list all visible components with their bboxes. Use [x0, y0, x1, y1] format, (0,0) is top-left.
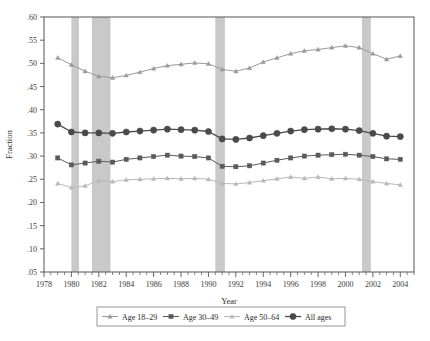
y-axis-ticks	[40, 17, 44, 272]
series-point-all-ages	[151, 127, 157, 133]
series-point-all-ages	[55, 121, 61, 127]
y-tick-label: .20	[27, 198, 37, 207]
series-point-age-30-49	[330, 153, 334, 157]
series-point-age-30-49	[206, 156, 210, 160]
y-tick-label: .60	[27, 13, 37, 22]
x-tick-label: 1988	[173, 280, 189, 289]
series-point-age-30-49	[302, 154, 306, 158]
legend-marker-3	[290, 313, 296, 319]
fraction-by-age-line-chart: .60.55.50.45.40.35.30.25.20.15.10.05 197…	[0, 0, 430, 341]
recession-band-2	[92, 17, 111, 272]
series-point-age-30-49	[247, 164, 251, 168]
series-point-age-30-49	[110, 160, 114, 164]
series-point-age-30-49	[193, 154, 197, 158]
series-point-all-ages	[370, 130, 376, 136]
series-point-age-30-49	[56, 156, 60, 160]
recession-band-4	[362, 17, 371, 272]
series-point-age-30-49	[398, 157, 402, 161]
chart-figure: .60.55.50.45.40.35.30.25.20.15.10.05 197…	[0, 0, 430, 341]
series-point-all-ages	[233, 136, 239, 142]
x-axis-tick-labels: 1978198019821984198619881990199219941996…	[36, 280, 408, 289]
series-point-all-ages	[219, 136, 225, 142]
series-point-all-ages	[137, 128, 143, 134]
y-tick-label: .40	[27, 106, 37, 115]
y-tick-label: .25	[27, 175, 37, 184]
legend-marker-1	[169, 314, 173, 318]
series-point-all-ages	[274, 130, 280, 136]
series-point-all-ages	[246, 135, 252, 141]
series-point-age-30-49	[316, 153, 320, 157]
series-point-all-ages	[68, 129, 74, 135]
series-point-all-ages	[383, 133, 389, 139]
series-point-all-ages	[205, 128, 211, 134]
series-point-age-30-49	[83, 161, 87, 165]
series-point-age-30-49	[152, 154, 156, 158]
series-point-all-ages	[260, 133, 266, 139]
y-tick-label: .05	[27, 268, 37, 277]
series-point-age-30-49	[165, 153, 169, 157]
series-point-age-30-49	[343, 152, 347, 156]
series-point-age-30-49	[289, 156, 293, 160]
x-tick-label: 1996	[283, 280, 299, 289]
x-tick-label: 1986	[146, 280, 162, 289]
legend-label-2: Age 50–64	[244, 313, 279, 322]
x-tick-label: 2004	[392, 280, 408, 289]
series-point-all-ages	[315, 126, 321, 132]
series-point-all-ages	[96, 130, 102, 136]
legend-label-1: Age 30–49	[183, 313, 218, 322]
y-tick-label: .55	[27, 36, 37, 45]
x-tick-label: 1990	[200, 280, 216, 289]
y-axis-tick-labels: .60.55.50.45.40.35.30.25.20.15.10.05	[27, 13, 37, 277]
y-axis-title: Fraction	[4, 130, 14, 159]
series-point-age-30-49	[97, 159, 101, 163]
series-point-all-ages	[192, 127, 198, 133]
series-point-all-ages	[301, 127, 307, 133]
series-point-age-30-49	[138, 156, 142, 160]
series-point-age-18-29	[55, 56, 60, 60]
series-point-age-30-49	[69, 163, 73, 167]
series-point-age-30-49	[124, 157, 128, 161]
series-point-all-ages	[123, 129, 129, 135]
legend-label-3: All ages	[305, 313, 331, 322]
series-point-age-50-64	[55, 181, 60, 185]
series-point-age-30-49	[220, 164, 224, 168]
x-tick-label: 1992	[228, 280, 244, 289]
series-point-all-ages	[329, 126, 335, 132]
series-point-age-30-49	[384, 157, 388, 161]
y-tick-label: .30	[27, 152, 37, 161]
x-tick-label: 2000	[337, 280, 353, 289]
y-tick-label: .35	[27, 129, 37, 138]
x-tick-label: 1994	[255, 280, 271, 289]
x-tick-label: 2002	[365, 280, 381, 289]
x-axis-ticks	[44, 272, 414, 277]
series-point-age-30-49	[357, 153, 361, 157]
series-point-all-ages	[109, 130, 115, 136]
x-tick-label: 1980	[63, 280, 79, 289]
x-tick-label: 1998	[310, 280, 326, 289]
series-point-all-ages	[178, 127, 184, 133]
series-point-all-ages	[288, 128, 294, 134]
y-tick-label: .50	[27, 59, 37, 68]
y-tick-label: .15	[27, 222, 37, 231]
series-point-age-30-49	[275, 158, 279, 162]
series-point-age-30-49	[371, 154, 375, 158]
series-point-all-ages	[82, 130, 88, 136]
chart-legend: Age 18–29Age 30–49Age 50–64All ages	[97, 307, 345, 326]
series-point-all-ages	[397, 134, 403, 140]
x-axis-title: Year	[221, 296, 237, 306]
series-point-age-30-49	[179, 154, 183, 158]
y-tick-label: .10	[27, 245, 37, 254]
recession-band-3	[215, 17, 225, 272]
x-tick-label: 1978	[36, 280, 52, 289]
legend-label-0: Age 18–29	[122, 313, 157, 322]
y-tick-label: .45	[27, 83, 37, 92]
recession-band-1	[71, 17, 79, 272]
series-point-age-30-49	[261, 161, 265, 165]
series-point-age-30-49	[234, 165, 238, 169]
x-tick-label: 1982	[91, 280, 107, 289]
series-point-all-ages	[164, 126, 170, 132]
series-point-all-ages	[342, 126, 348, 132]
series-point-all-ages	[356, 127, 362, 133]
x-tick-label: 1984	[118, 280, 134, 289]
series-point-age-18-29	[398, 54, 403, 58]
